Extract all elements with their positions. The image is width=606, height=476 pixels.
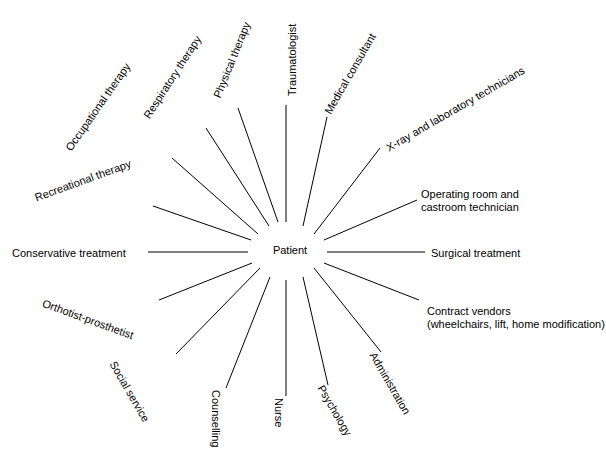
- node-label-surgical-treatment: Surgical treatment: [431, 247, 520, 260]
- node-label-nurse: Nurse: [273, 398, 286, 427]
- node-label-conservative-treatment: Conservative treatment: [12, 247, 126, 260]
- spoke-line-recreational-therapy: [153, 206, 251, 240]
- node-label-counselling: Counselling: [210, 390, 223, 447]
- center-node-patient: Patient: [273, 244, 307, 256]
- spoke-line-administration: [314, 268, 381, 352]
- diagram-canvas: Patient TraumatologistMedical consultant…: [0, 0, 606, 476]
- node-label-traumatologist: Traumatologist: [286, 24, 299, 96]
- spoke-line-social-service: [176, 268, 260, 354]
- spoke-line-operating-room-and-castroom-technician: [324, 200, 417, 240]
- spoke-line-psychology: [303, 277, 328, 385]
- spoke-line-respiratory-therapy: [206, 128, 269, 226]
- node-label-contract-vendors: Contract vendors (wheelchairs, lift, hom…: [427, 305, 605, 330]
- spoke-line-occupational-therapy: [172, 158, 258, 234]
- spoke-line-orthotist-prosthetist: [159, 263, 252, 300]
- spoke-line-counselling: [226, 277, 270, 388]
- spoke-line-xray-and-laboratory-technicians: [314, 148, 380, 234]
- spoke-line-medical-consultant: [303, 117, 327, 226]
- node-label-operating-room-and-castroom-technician: Operating room and castroom technician: [421, 188, 519, 213]
- spoke-line-physical-therapy: [238, 108, 278, 222]
- spoke-line-contract-vendors: [324, 263, 419, 300]
